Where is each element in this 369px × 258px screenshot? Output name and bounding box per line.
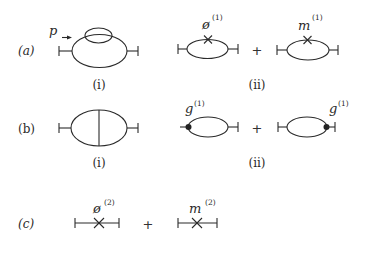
term-symbol: m	[298, 18, 310, 33]
diagram-a-ii-term1: ø (1)	[178, 13, 238, 59]
diagram-c-term1: ø (2)	[75, 198, 119, 228]
subfigure-label-a-i: (i)	[92, 78, 105, 92]
feynman-diagram-figure: (a) p (i) ø (1) +	[0, 0, 369, 258]
subfigure-label-b-i: (i)	[92, 156, 105, 170]
plus-sign: +	[143, 217, 154, 232]
row-label-c: (c)	[18, 217, 34, 231]
momentum-label: p	[49, 23, 58, 38]
term-order: (2)	[104, 198, 115, 207]
one-loop	[188, 117, 228, 137]
term-order: (1)	[212, 13, 223, 22]
term-order: (1)	[194, 99, 205, 108]
term-symbol: g	[185, 101, 193, 116]
vertex-dot-icon	[186, 124, 192, 130]
row-label-b: (b)	[18, 122, 35, 136]
diagram-a-ii-term2: m (1)	[277, 13, 338, 60]
diagram-b-i	[59, 110, 138, 146]
plus-sign: +	[252, 43, 263, 58]
one-loop	[187, 40, 228, 59]
term-order: (1)	[312, 13, 323, 22]
diagram-c-term2: m (2)	[178, 198, 217, 228]
term-order: (2)	[205, 198, 216, 207]
one-loop	[287, 117, 327, 137]
term-symbol: g	[329, 101, 337, 116]
subfigure-label-b-ii: (ii)	[248, 156, 265, 170]
term-symbol: m	[189, 201, 201, 216]
plus-sign: +	[252, 121, 263, 136]
row-label-a: (a)	[18, 44, 35, 58]
arrow-head-icon	[67, 36, 72, 40]
one-loop	[287, 40, 329, 60]
term-order: (1)	[338, 99, 349, 108]
diagram-a-i: p	[49, 23, 138, 68]
outer-loop	[72, 35, 127, 68]
term-symbol: ø	[201, 17, 210, 32]
diagram-b-ii-term2: g (1)	[278, 99, 349, 137]
term-symbol: ø	[92, 201, 101, 216]
diagram-b-ii-term1: g (1)	[180, 99, 238, 137]
subfigure-label-a-ii: (ii)	[248, 78, 265, 92]
